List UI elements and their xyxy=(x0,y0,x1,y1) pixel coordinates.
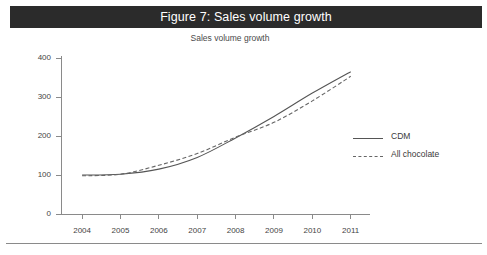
page-divider xyxy=(6,243,482,244)
y-tick-label: 100 xyxy=(25,170,51,179)
figure-caption-bar: Figure 7: Sales volume growth xyxy=(10,6,482,28)
y-tick-label: 300 xyxy=(25,92,51,101)
legend-label-all-chocolate: All chocolate xyxy=(391,149,439,159)
x-tick-label: 2010 xyxy=(295,226,329,235)
legend-item-all-chocolate: All chocolate xyxy=(353,148,481,166)
legend-item-cdm: CDM xyxy=(353,130,481,148)
x-tick-label: 2009 xyxy=(257,226,291,235)
x-tick-label: 2008 xyxy=(219,226,253,235)
legend-line-dashed-icon xyxy=(353,156,383,157)
x-tick-label: 2011 xyxy=(334,226,368,235)
x-tick-label: 2007 xyxy=(180,226,214,235)
y-tick-label: 200 xyxy=(25,131,51,140)
x-tick-label: 2005 xyxy=(103,226,137,235)
chart-legend: CDM All chocolate xyxy=(353,130,481,166)
series-line-cdm xyxy=(82,72,351,175)
y-tick-label: 0 xyxy=(25,209,51,218)
figure-container: Figure 7: Sales volume growth Sales volu… xyxy=(0,0,487,255)
x-tick-label: 2006 xyxy=(142,226,176,235)
y-tick-label: 400 xyxy=(25,53,51,62)
legend-line-solid-icon xyxy=(353,138,383,139)
x-tick-label: 2004 xyxy=(65,226,99,235)
legend-label-cdm: CDM xyxy=(391,131,410,141)
series-line-all-chocolate xyxy=(82,76,351,175)
chart-title: Sales volume growth xyxy=(0,33,460,43)
